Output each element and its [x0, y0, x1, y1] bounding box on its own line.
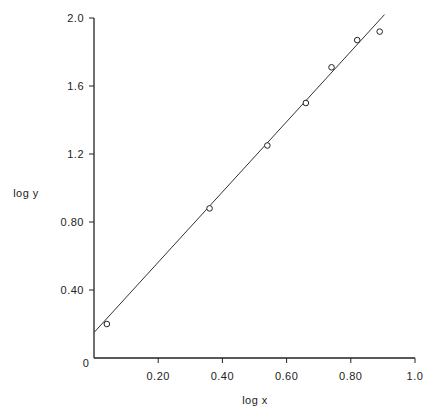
y-tick-label: 0.80 — [61, 216, 84, 228]
origin-label: 0 — [83, 357, 90, 369]
x-tick-label: 0.40 — [211, 370, 234, 382]
fit-line-path — [94, 15, 385, 333]
y-tick-label: 0.40 — [61, 284, 84, 296]
log-log-chart: 00.200.400.600.801.00.400.801.21.62.0 lo… — [0, 0, 435, 417]
data-point — [265, 143, 271, 149]
data-point — [207, 206, 213, 212]
data-points — [104, 29, 382, 327]
x-tick-label: 0.20 — [146, 370, 169, 382]
x-axis-label: log x — [242, 394, 268, 406]
y-axis-label: log y — [13, 187, 39, 199]
fit-line — [94, 15, 385, 333]
y-tick-label: 1.2 — [67, 148, 84, 160]
x-tick-label: 0.60 — [275, 370, 298, 382]
x-tick-label: 0.80 — [339, 370, 362, 382]
data-point — [377, 29, 383, 35]
data-point — [303, 100, 309, 106]
x-tick-label: 1.0 — [407, 370, 424, 382]
y-tick-label: 2.0 — [67, 12, 84, 24]
y-tick-label: 1.6 — [67, 80, 84, 92]
data-point — [354, 37, 360, 43]
data-point — [104, 321, 110, 327]
data-point — [329, 65, 335, 71]
axes: 00.200.400.600.801.00.400.801.21.62.0 — [61, 12, 424, 382]
